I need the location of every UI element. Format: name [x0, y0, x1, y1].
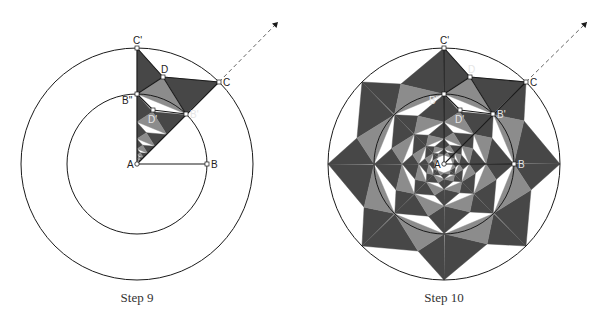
point-C — [524, 80, 528, 84]
label-C-prime: C' — [133, 35, 142, 46]
label-A: A — [127, 159, 134, 170]
point-B-prime — [491, 112, 495, 116]
point-B — [205, 162, 209, 166]
point-B-prime — [184, 112, 188, 116]
label-D: D — [468, 64, 475, 75]
point-D — [468, 75, 472, 79]
point-B — [512, 162, 516, 166]
step-9-caption: Step 9 — [121, 290, 154, 306]
label-C-prime: C' — [440, 35, 449, 46]
label-D: D — [161, 64, 168, 75]
point-B-double-prime — [442, 92, 446, 96]
wedge — [137, 48, 219, 162]
point-C-prime — [442, 46, 446, 50]
point-C — [217, 80, 221, 84]
point-D — [161, 75, 165, 79]
step-9-figure: ABCC'DB'B''D' — [21, 22, 278, 280]
figure-origin: ABCC'DB'B''D' — [21, 22, 278, 280]
label-D-prime: D' — [148, 114, 157, 125]
step-10-figure: ABCC'DB'B''D' — [304, 22, 587, 304]
dashed-ray — [219, 22, 278, 82]
figure-origin: ABCC'DB'B''D' — [304, 22, 587, 304]
label-B-prime: B' — [190, 109, 199, 120]
label-A: A — [434, 159, 441, 170]
label-B-double-prime: B'' — [429, 95, 440, 106]
label-B: B — [518, 159, 525, 170]
point-A — [442, 162, 446, 166]
label-B-prime: B' — [497, 109, 506, 120]
label-B: B — [211, 159, 218, 170]
step-10-caption: Step 10 — [424, 290, 463, 306]
label-C: C — [530, 77, 537, 88]
point-D-prime — [151, 108, 155, 112]
construction-diagram: ABCC'DB'B''D' ABCC'DB'B''D' — [0, 0, 608, 325]
label-C: C — [223, 77, 230, 88]
arrowhead-icon — [272, 22, 278, 28]
point-D-prime — [458, 108, 462, 112]
label-D-prime: D' — [455, 114, 464, 125]
label-B-double-prime: B'' — [122, 95, 133, 106]
point-C-prime — [135, 46, 139, 50]
point-B-double-prime — [135, 92, 139, 96]
tessellation-fill — [137, 48, 219, 162]
dashed-ray — [526, 22, 587, 82]
point-A — [135, 162, 139, 166]
